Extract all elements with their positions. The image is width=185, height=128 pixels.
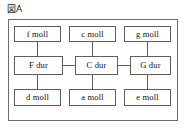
node-f-dur[interactable]: F dur (14, 56, 63, 75)
node-g-dur[interactable]: G dur (130, 56, 171, 75)
connector-g-dur-to-e-moll (147, 74, 148, 89)
connector-c-dur-to-a-moll (92, 74, 93, 89)
connector-f-dur-to-d-moll (37, 74, 38, 89)
node-c-moll[interactable]: c moll (69, 26, 116, 42)
node-c-dur-label: C dur (86, 61, 106, 70)
node-f-moll[interactable]: f moll (14, 26, 61, 42)
node-d-moll-label: d moll (26, 93, 49, 102)
node-f-dur-label: F dur (29, 61, 48, 70)
node-c-dur[interactable]: C dur (75, 56, 118, 75)
connector-f-moll-to-f-dur (37, 41, 38, 56)
connector-f-dur-to-c-dur (63, 65, 75, 66)
node-a-moll-label: a moll (81, 93, 104, 102)
node-e-moll-label: e moll (136, 93, 159, 102)
node-g-moll[interactable]: g moll (124, 26, 171, 42)
figure-root: 図A f moll c moll g moll F dur C d (0, 0, 185, 128)
connector-c-dur-to-g-dur (118, 65, 130, 66)
connector-c-moll-to-c-dur (92, 41, 93, 56)
node-g-moll-label: g moll (136, 30, 159, 39)
node-f-moll-label: f moll (27, 30, 49, 39)
node-d-moll[interactable]: d moll (14, 89, 61, 106)
node-c-moll-label: c moll (81, 30, 104, 39)
diagram-grid: f moll c moll g moll F dur C dur G dur d… (0, 0, 185, 128)
node-a-moll[interactable]: a moll (69, 89, 116, 106)
node-e-moll[interactable]: e moll (124, 89, 171, 106)
connector-g-moll-to-g-dur (147, 41, 148, 56)
node-g-dur-label: G dur (140, 61, 161, 70)
